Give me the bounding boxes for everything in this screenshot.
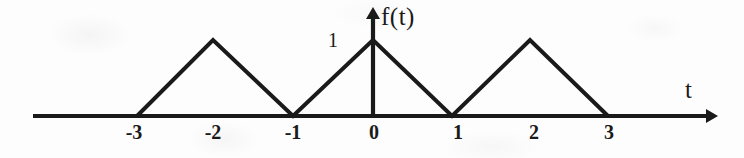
x-tick-label-1: 1 bbox=[453, 121, 463, 144]
x-tick-label-minus1: -1 bbox=[285, 121, 302, 144]
x-axis-arrow-head bbox=[706, 109, 718, 123]
x-tick-label-2: 2 bbox=[529, 121, 539, 144]
y-axis-arrow-head bbox=[366, 7, 380, 19]
x-tick-label-3: 3 bbox=[604, 121, 614, 144]
y-axis-label: f(t) bbox=[381, 3, 415, 31]
x-tick-label-0: 0 bbox=[369, 121, 379, 144]
y-value-label-1: 1 bbox=[328, 29, 338, 52]
figure-canvas: f(t) t 1 -3 -2 -1 0 1 2 3 bbox=[0, 0, 744, 158]
x-tick-label-minus3: -3 bbox=[126, 121, 143, 144]
x-tick-label-minus2: -2 bbox=[205, 121, 222, 144]
x-axis-label: t bbox=[685, 76, 692, 104]
